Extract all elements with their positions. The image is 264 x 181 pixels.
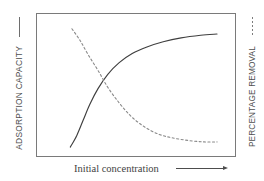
arrow-shaft <box>176 168 224 169</box>
x-axis-label: Initial concentration <box>74 163 159 174</box>
plot-svg <box>37 14 235 156</box>
plot-area <box>36 13 236 157</box>
arrow-head <box>223 166 228 170</box>
adsorption-capacity-curve <box>70 34 217 147</box>
chart-figure: ADSORPTION CAPACITY PERCENTAGE REMOVAL I… <box>0 0 264 181</box>
left-axis-block: ADSORPTION CAPACITY <box>6 13 32 157</box>
dashed-line-legend-mark <box>252 17 253 37</box>
right-axis-label: PERCENTAGE REMOVAL <box>248 46 257 147</box>
percentage-removal-curve <box>72 29 217 142</box>
solid-line-legend-mark <box>19 17 20 37</box>
left-axis-label: ADSORPTION CAPACITY <box>14 46 24 150</box>
right-axis-block: PERCENTAGE REMOVAL <box>240 13 264 161</box>
x-axis-row: Initial concentration <box>36 160 236 176</box>
right-arrow-icon <box>176 165 228 172</box>
